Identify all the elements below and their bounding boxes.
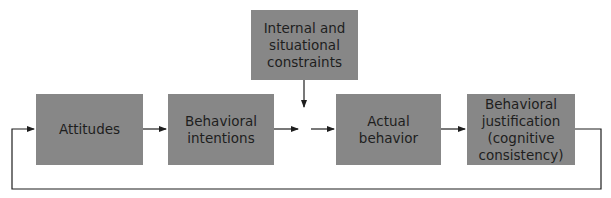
node-label: Behavioral justification (cognitive cons… [479,96,564,164]
node-attitudes: Attitudes [36,94,143,165]
node-internal-situational-constraints: Internal and situational constraints [251,10,358,80]
node-label: Internal and situational constraints [264,20,346,71]
node-behavioral-intentions: Behavioral intentions [168,94,274,165]
node-label: Behavioral intentions [185,113,257,147]
node-label: Attitudes [59,121,120,138]
node-label: Actual behavior [342,113,435,147]
node-behavioral-justification: Behavioral justification (cognitive cons… [467,94,575,165]
node-actual-behavior: Actual behavior [336,94,441,165]
